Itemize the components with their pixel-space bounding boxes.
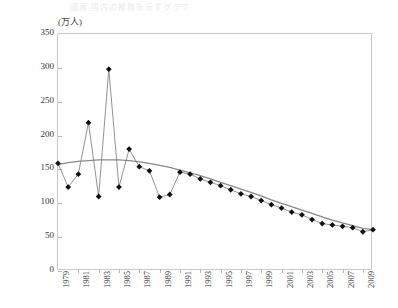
data-point-marker (177, 169, 183, 175)
y-axis-tick-label: 250 (28, 96, 54, 105)
data-point-marker (258, 198, 264, 204)
plot-area (57, 33, 372, 270)
data-point-marker (116, 184, 122, 190)
x-axis-tick-label: 1997 (244, 271, 254, 288)
data-point-marker (248, 194, 254, 200)
series-line (58, 69, 373, 232)
y-axis-tick-label: 300 (28, 62, 54, 71)
data-point-marker (340, 223, 346, 229)
y-axis-labels: 050100150200250300350 (24, 0, 54, 308)
data-point-marker (370, 227, 376, 233)
data-point-marker (147, 168, 153, 174)
data-point-marker (218, 183, 224, 189)
data-point-marker (289, 209, 295, 215)
data-point-marker (350, 225, 356, 231)
x-axis-tick-label: 1981 (81, 271, 91, 288)
x-axis-tick-label: 2003 (305, 271, 315, 288)
data-point-marker (197, 176, 203, 182)
data-point-marker (299, 212, 305, 218)
data-point-marker (208, 179, 214, 185)
x-axis-tick-label: 1983 (102, 271, 112, 288)
data-point-marker (187, 171, 193, 177)
x-axis-tick-label: 2007 (346, 271, 356, 288)
x-axis-tick-label: 1989 (163, 271, 173, 288)
x-axis-tick-label: 2001 (285, 271, 295, 288)
data-point-marker (228, 187, 234, 193)
data-point-marker (106, 66, 112, 72)
y-axis-tick-label: 200 (28, 130, 54, 139)
y-axis-tick-label: 350 (28, 28, 54, 37)
data-point-marker (309, 217, 315, 223)
x-axis-tick-label: 1991 (183, 271, 193, 288)
data-point-marker (157, 194, 163, 200)
y-axis-unit-label: (万人) (58, 15, 82, 28)
x-axis-tick-label: 1999 (264, 271, 274, 288)
data-point-marker (167, 192, 173, 198)
x-axis-tick-label: 1995 (224, 271, 234, 288)
x-axis-labels: 1979198119831985198719891991199319951997… (0, 271, 398, 308)
x-axis-tick-label: 1993 (203, 271, 213, 288)
x-axis-tick-label: 1985 (122, 271, 132, 288)
y-axis-tick-label: 50 (28, 231, 54, 240)
x-axis-tick-label: 1979 (61, 271, 71, 288)
data-point-marker (55, 160, 61, 166)
data-point-marker (96, 194, 102, 200)
data-point-marker (126, 146, 132, 152)
chart-page: 図表 国内の推移を示すグラフ (万人) 05010015020025030035… (0, 0, 398, 308)
data-point-marker (238, 191, 244, 197)
y-axis-tick-label: 100 (28, 197, 54, 206)
data-series-layer (58, 34, 373, 271)
data-point-marker (86, 120, 92, 126)
page-title: 図表 国内の推移を示すグラフ (70, 1, 370, 12)
x-axis-tick-label: 2005 (325, 271, 335, 288)
x-axis-tick-label: 1987 (142, 271, 152, 288)
y-axis-tick-label: 150 (28, 163, 54, 172)
data-point-marker (279, 205, 285, 211)
data-point-marker (360, 229, 366, 235)
data-point-marker (319, 221, 325, 227)
data-point-marker (268, 202, 274, 208)
x-axis-tick-label: 2009 (366, 271, 376, 288)
data-point-marker (136, 164, 142, 170)
data-point-marker (329, 222, 335, 228)
